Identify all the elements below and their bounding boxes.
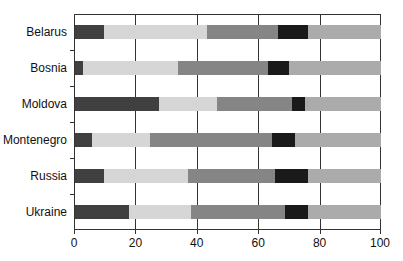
bar-segment-1 bbox=[75, 169, 104, 183]
bar-segment-4 bbox=[292, 97, 304, 111]
bar-segment-3 bbox=[150, 133, 272, 147]
bar-segment-2 bbox=[92, 133, 150, 147]
bar-belarus bbox=[75, 25, 381, 39]
x-tick bbox=[380, 230, 381, 234]
bar-segment-1 bbox=[75, 133, 92, 147]
bar-segment-2 bbox=[104, 25, 207, 39]
bar-moldova bbox=[75, 97, 381, 111]
bar-segment-1 bbox=[75, 61, 83, 75]
bar-russia bbox=[75, 169, 381, 183]
bar-segment-2 bbox=[159, 97, 217, 111]
gridline bbox=[135, 15, 136, 229]
bar-segment-3 bbox=[217, 97, 292, 111]
x-tick-label: 40 bbox=[190, 236, 203, 250]
y-tick bbox=[70, 86, 74, 87]
bar-segment-1 bbox=[75, 25, 104, 39]
gridline bbox=[320, 15, 321, 229]
bar-segment-5 bbox=[305, 97, 382, 111]
bar-segment-1 bbox=[75, 97, 159, 111]
x-tick-label: 100 bbox=[370, 236, 390, 250]
bar-montenegro bbox=[75, 133, 381, 147]
x-tick bbox=[74, 230, 75, 234]
y-tick-label: Bosnia bbox=[30, 61, 67, 75]
bar-segment-3 bbox=[207, 25, 279, 39]
gridline bbox=[197, 15, 198, 229]
x-tick-label: 0 bbox=[71, 236, 78, 250]
bar-segment-4 bbox=[285, 205, 308, 219]
bar-segment-5 bbox=[295, 133, 381, 147]
bar-segment-4 bbox=[272, 133, 295, 147]
bar-segment-3 bbox=[188, 169, 275, 183]
bar-segment-1 bbox=[75, 205, 129, 219]
plot-area bbox=[74, 14, 381, 230]
y-tick-label: Russia bbox=[30, 169, 67, 183]
x-tick bbox=[197, 230, 198, 234]
bar-bosnia bbox=[75, 61, 381, 75]
y-tick-label: Montenegro bbox=[3, 133, 67, 147]
x-tick-label: 20 bbox=[129, 236, 142, 250]
bar-segment-5 bbox=[308, 169, 381, 183]
y-tick-label: Belarus bbox=[26, 25, 67, 39]
bar-segment-5 bbox=[308, 205, 381, 219]
bar-segment-4 bbox=[268, 61, 289, 75]
bar-segment-5 bbox=[289, 61, 381, 75]
y-tick bbox=[70, 50, 74, 51]
bar-ukraine bbox=[75, 205, 381, 219]
x-tick bbox=[135, 230, 136, 234]
x-tick-label: 60 bbox=[252, 236, 265, 250]
y-tick bbox=[70, 158, 74, 159]
y-tick bbox=[70, 194, 74, 195]
bar-segment-2 bbox=[83, 61, 178, 75]
bar-segment-3 bbox=[191, 205, 284, 219]
x-tick bbox=[320, 230, 321, 234]
y-tick bbox=[70, 122, 74, 123]
stacked-bar-chart: BelarusBosniaMoldovaMontenegroRussiaUkra… bbox=[0, 0, 403, 261]
bar-segment-4 bbox=[275, 169, 307, 183]
x-tick-label: 80 bbox=[313, 236, 326, 250]
bar-segment-2 bbox=[104, 169, 188, 183]
bar-segment-5 bbox=[308, 25, 381, 39]
bar-segment-4 bbox=[278, 25, 307, 39]
gridline bbox=[258, 15, 259, 229]
bar-segment-2 bbox=[129, 205, 192, 219]
y-tick-label: Ukraine bbox=[26, 205, 67, 219]
bar-segment-3 bbox=[178, 61, 268, 75]
x-tick bbox=[258, 230, 259, 234]
y-tick-label: Moldova bbox=[22, 97, 67, 111]
